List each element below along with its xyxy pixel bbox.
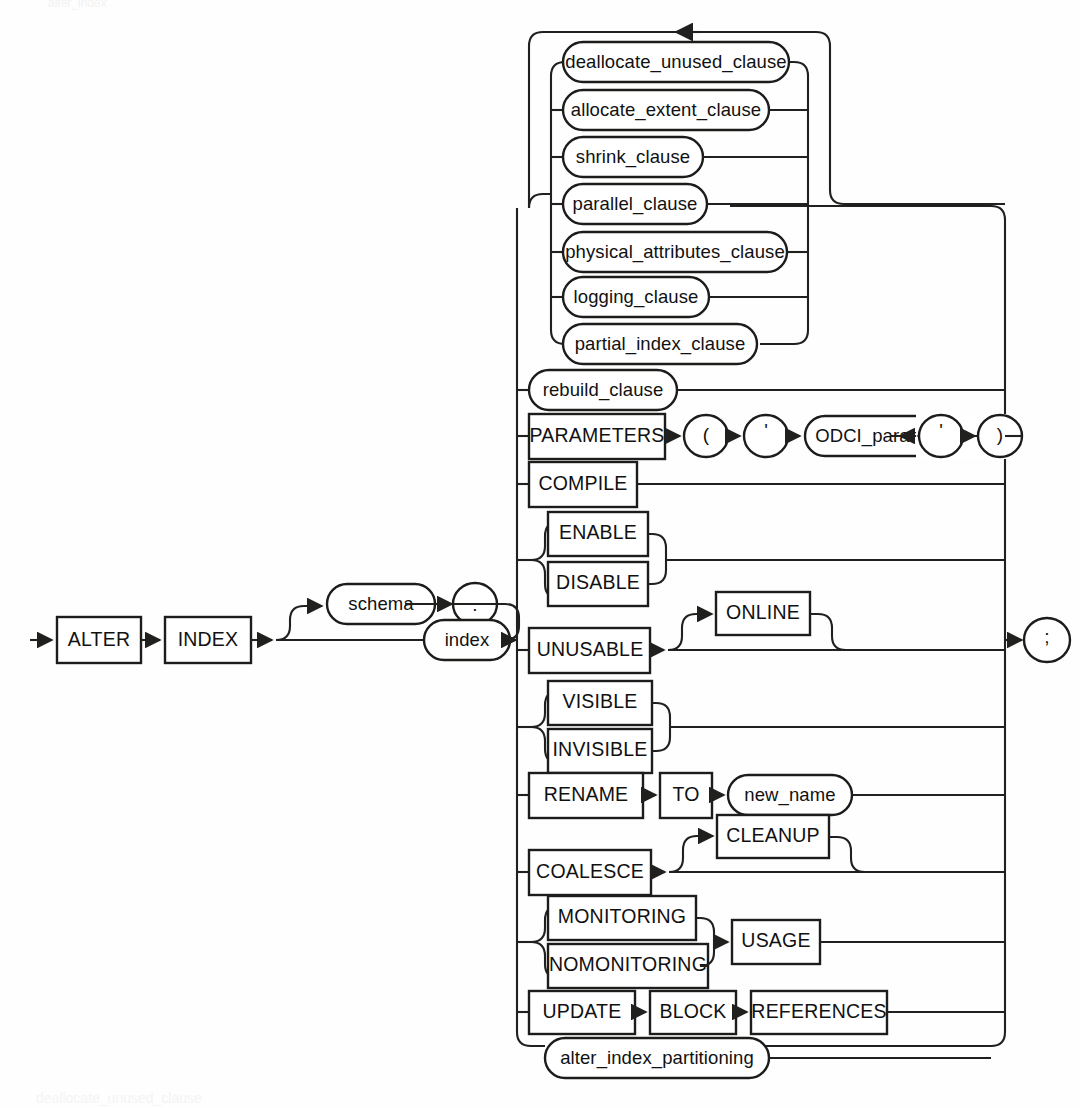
nonterminal-new-name-label: new_name [744, 784, 835, 806]
token-compile-label: COMPILE [538, 472, 627, 494]
nonterminal-schema-label: schema [348, 593, 414, 614]
nonterminal-shrink-clause-label: shrink_clause [576, 146, 690, 168]
nonterminal-partial-index-clause-label: partial_index_clause [575, 333, 746, 355]
nonterminal-deallocate-unused-clause-label: deallocate_unused_clause [565, 51, 787, 73]
alt-rebuild-clause: rebuild_clause [517, 370, 1005, 410]
token-update-label: UPDATE [543, 1000, 622, 1022]
nonterminal-physical-attributes-clause-label: physical_attributes_clause [565, 241, 785, 263]
diagram-canvas: alter_index deallocate_unused_clause ALT… [0, 0, 1080, 1108]
token-coalesce-label: COALESCE [536, 860, 644, 882]
token-usage-label: USAGE [741, 929, 810, 951]
token-rename-label: RENAME [544, 783, 629, 805]
token-disable-label: DISABLE [556, 571, 640, 593]
token-to-label: TO [672, 783, 699, 805]
token-references-label: REFERENCES [751, 1000, 886, 1022]
token-nomonitoring-label: NOMONITORING [549, 953, 707, 975]
token-parameters-label: PARAMETERS [530, 424, 665, 446]
alt-monitoring-usage: MONITORING NOMONITORING USAGE [517, 896, 1005, 988]
alt-compile: COMPILE [517, 462, 1005, 507]
token-index-label: INDEX [178, 628, 239, 650]
token-cleanup-label: CLEANUP [726, 824, 820, 846]
token-alter-label: ALTER [68, 628, 130, 650]
nonterminal-alter-index-partitioning-label: alter_index_partitioning [560, 1047, 754, 1069]
nonterminal-rebuild-clause-label: rebuild_clause [543, 379, 664, 401]
punct-semicolon-label: ; [1044, 626, 1049, 647]
punct-close-paren-label: ) [997, 424, 1003, 445]
nonterminal-index-label: index [445, 629, 490, 650]
alt-update-block-references: UPDATE BLOCK REFERENCES [517, 991, 1005, 1034]
alt-rename-to: RENAME TO new_name [517, 773, 1005, 818]
token-visible-label: VISIBLE [562, 690, 637, 712]
nonterminal-logging-clause-label: logging_clause [574, 286, 699, 308]
token-unusable-label: UNUSABLE [537, 638, 644, 660]
token-enable-label: ENABLE [559, 521, 637, 543]
token-online-label: ONLINE [726, 601, 800, 623]
alt-parameters-closers: ' ) [916, 414, 1022, 459]
punct-quote-close-label: ' [939, 420, 943, 441]
token-invisible-label: INVISIBLE [552, 738, 647, 760]
nonterminal-parallel-clause-label: parallel_clause [573, 193, 698, 215]
token-block-label: BLOCK [659, 1000, 726, 1022]
alt-visible-invisible: VISIBLE INVISIBLE [517, 681, 1005, 773]
punct-quote-open-label: ' [764, 420, 768, 441]
punct-open-paren-label: ( [703, 424, 710, 445]
token-monitoring-label: MONITORING [558, 905, 686, 927]
alt-coalesce: COALESCE CLEANUP [517, 815, 1005, 895]
head-sequence: ALTER INDEX schema . index [30, 583, 519, 663]
railroad-diagram: ALTER INDEX schema . index [0, 0, 1080, 1108]
alt-alter-index-partitioning: alter_index_partitioning [545, 1038, 991, 1078]
repeat-group: deallocate_unused_clause allocate_extent… [529, 32, 1005, 364]
nonterminal-allocate-extent-clause-label: allocate_extent_clause [571, 99, 761, 121]
